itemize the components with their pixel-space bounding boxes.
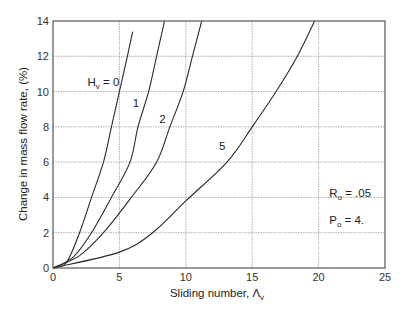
y-tick-label: 8 (43, 121, 49, 133)
annotation: Po = 4. (329, 214, 364, 229)
x-axis-label: Sliding number, Λv (170, 287, 264, 302)
x-tick-label: 25 (379, 271, 391, 283)
curve-hv-1 (53, 21, 165, 268)
annotation: 5 (219, 140, 225, 152)
annotation: Hv = 0 (88, 76, 120, 91)
y-tick-label: 12 (37, 50, 49, 62)
x-tick-label: 15 (246, 271, 258, 283)
y-tick-label: 0 (43, 262, 49, 274)
x-tick-label: 10 (180, 271, 192, 283)
y-tick-label: 10 (37, 86, 49, 98)
curve-annotations: Hv = 0125Ro = .05Po = 4. (88, 76, 372, 229)
y-tick-labels: 02468101214 (37, 15, 49, 274)
x-tick-label: 0 (50, 271, 56, 283)
y-tick-label: 14 (37, 15, 49, 27)
annotation: 2 (159, 113, 165, 125)
x-tick-label: 5 (116, 271, 122, 283)
data-curves (53, 21, 315, 268)
annotation: 1 (133, 97, 139, 109)
chart: 0510152025 02468101214 Hv = 0125Ro = .05… (0, 0, 405, 312)
annotation: Ro = .05 (329, 187, 371, 202)
y-tick-label: 2 (43, 227, 49, 239)
y-tick-label: 6 (43, 156, 49, 168)
y-tick-label: 4 (43, 191, 49, 203)
x-tick-labels: 0510152025 (50, 271, 391, 283)
y-axis-label: Change in mass flow rate, (%) (17, 67, 29, 221)
x-tick-label: 20 (312, 271, 324, 283)
